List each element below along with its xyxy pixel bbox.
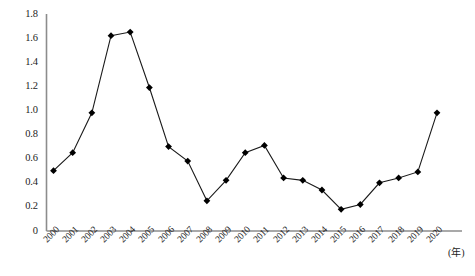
data-point-marker: [261, 142, 268, 149]
data-point-marker: [395, 175, 402, 182]
data-point-marker: [108, 32, 115, 39]
y-axis-tick-label: 0.6: [12, 153, 38, 164]
y-axis-tick-label: 1.6: [12, 33, 38, 44]
y-axis-tick-label: 1.2: [12, 81, 38, 92]
y-axis-tick-label: 0.8: [12, 129, 38, 140]
y-axis-tick-label: 0.4: [12, 177, 38, 188]
data-point-marker: [280, 175, 287, 182]
y-axis-tick-label: 0.2: [12, 201, 38, 212]
data-point-marker: [242, 149, 249, 156]
data-point-marker: [434, 109, 441, 116]
x-axis-unit-label: (年): [448, 248, 465, 258]
y-axis-tick-label: 1.0: [12, 105, 38, 116]
data-point-marker: [299, 177, 306, 184]
data-point-marker: [414, 169, 421, 176]
y-axis-tick-label: 1.8: [12, 9, 38, 20]
y-axis-tick-label: 0: [12, 226, 38, 237]
data-point-marker: [88, 109, 95, 116]
data-point-marker: [146, 84, 153, 91]
y-axis-tick-label: 1.4: [12, 57, 38, 68]
data-point-marker: [127, 29, 134, 36]
line-chart: 00.20.40.60.81.01.21.41.61.8 20002001200…: [0, 0, 475, 276]
data-point-markers: [50, 29, 440, 213]
